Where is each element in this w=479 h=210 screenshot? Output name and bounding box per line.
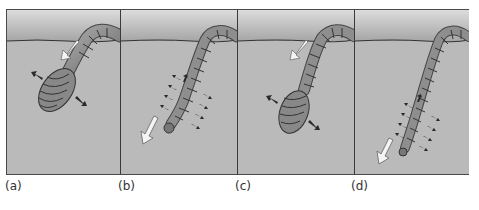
- soil: [7, 41, 120, 174]
- worm-tip-setae: [164, 123, 174, 133]
- panel-a-illustration: [7, 10, 120, 174]
- panel-label-d: (d): [351, 179, 368, 193]
- worm-tip-setae: [399, 148, 407, 156]
- panel-c-illustration: [238, 10, 354, 174]
- panel-c: [238, 10, 354, 174]
- panel-b: [121, 10, 237, 174]
- panel-d-illustration: [355, 10, 469, 174]
- figure-frame: [6, 9, 469, 175]
- panel-a: [7, 10, 120, 174]
- panel-d: [355, 10, 469, 174]
- panel-label-a: (a): [5, 179, 22, 193]
- panel-b-illustration: [121, 10, 237, 174]
- panel-label-b: (b): [118, 179, 135, 193]
- panel-label-c: (c): [235, 179, 251, 193]
